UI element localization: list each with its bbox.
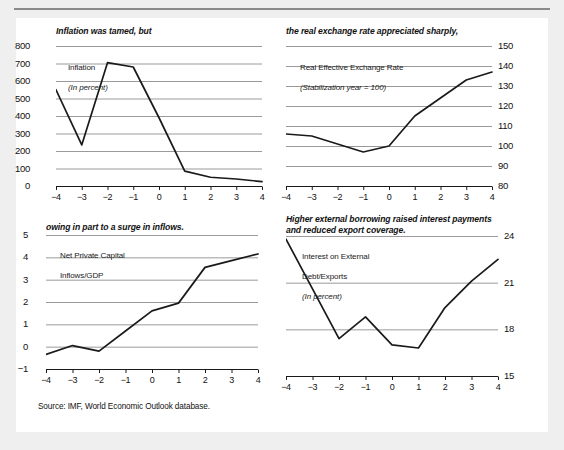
x-tick-label: −1 — [123, 193, 143, 202]
chart-title: the real exchange rate appreciated sharp… — [286, 26, 458, 37]
x-tick-label: −3 — [72, 193, 92, 202]
y-tick-label: 15 — [504, 371, 526, 381]
chart-interest-on-external-debt: Higher external borrowing raised interes… — [284, 214, 540, 402]
y-tick-label: 3 — [10, 275, 28, 285]
y-tick-label: 100 — [498, 141, 524, 151]
x-tick-label: 0 — [142, 376, 162, 385]
source-note: Source: IMF, World Economic Outlook data… — [38, 402, 210, 411]
x-tick-label: 2 — [431, 193, 451, 202]
y-tick-label: 1 — [10, 319, 28, 329]
x-tick-label: 4 — [482, 193, 502, 202]
y-tick-label: 4 — [10, 252, 28, 262]
header-rule — [14, 8, 550, 10]
x-tick-label: 0 — [149, 193, 169, 202]
x-tick-label: 2 — [195, 376, 215, 385]
x-tick-label: 3 — [226, 193, 246, 202]
x-tick-label: 3 — [462, 383, 482, 392]
series-label: Net Private Capital Inflows/GDP — [60, 241, 125, 281]
y-tick-label: 2 — [10, 297, 28, 307]
series-label-line2: (In percent) — [68, 83, 108, 92]
series-label: Inflation (In percent) — [68, 53, 108, 93]
y-tick-label: 21 — [504, 278, 526, 288]
y-tick-label: 140 — [498, 61, 524, 71]
series-label-line1: Inflation — [68, 63, 95, 72]
chart-title: Higher external borrowing raised interes… — [286, 214, 492, 235]
series-label-line3: (In percent) — [302, 292, 342, 301]
series-label-line2: Debt/Exports — [302, 272, 347, 281]
x-tick-label: −4 — [276, 193, 296, 202]
x-tick-label: −2 — [329, 383, 349, 392]
y-tick-label: 200 — [4, 146, 30, 156]
chart-net-private-capital-inflows: owing in part to a surge in inflows. Net… — [24, 222, 276, 402]
y-tick-label: 500 — [4, 94, 30, 104]
x-tick-label: 3 — [222, 376, 242, 385]
y-tick-label: 80 — [498, 181, 524, 191]
x-tick-label: −3 — [63, 376, 83, 385]
y-tick-label: 600 — [4, 76, 30, 86]
figure-page: Inflation was tamed, but Inflation (In p… — [0, 0, 564, 450]
y-tick-label: 0 — [10, 342, 28, 352]
x-tick-label: 1 — [175, 193, 195, 202]
x-tick-label: 1 — [169, 376, 189, 385]
figure-panel: Inflation was tamed, but Inflation (In p… — [16, 18, 548, 432]
charts-container: Inflation was tamed, but Inflation (In p… — [16, 18, 548, 432]
x-tick-label: 2 — [435, 383, 455, 392]
x-tick-label: −1 — [353, 193, 373, 202]
x-tick-label: 2 — [201, 193, 221, 202]
x-tick-label: 1 — [405, 193, 425, 202]
y-tick-label: −1 — [10, 364, 28, 374]
y-tick-label: 400 — [4, 111, 30, 121]
x-tick-label: 3 — [456, 193, 476, 202]
x-tick-label: 4 — [488, 383, 508, 392]
y-tick-label: 90 — [498, 161, 524, 171]
x-tick-label: −1 — [116, 376, 136, 385]
x-tick-label: −4 — [276, 383, 296, 392]
x-tick-label: 0 — [379, 193, 399, 202]
series-label: Interest on External Debt/Exports (In pe… — [302, 242, 369, 302]
x-tick-label: 4 — [248, 376, 268, 385]
series-label-line1: Interest on External — [302, 252, 369, 261]
x-tick-label: −4 — [46, 193, 66, 202]
x-tick-label: −3 — [302, 193, 322, 202]
x-tick-label: −1 — [356, 383, 376, 392]
series-label-line2: (Stabilization year = 100) — [300, 83, 386, 92]
chart-title: owing in part to a surge in inflows. — [46, 222, 184, 233]
x-tick-label: −4 — [36, 376, 56, 385]
y-tick-label: 130 — [498, 81, 524, 91]
x-tick-label: −2 — [89, 376, 109, 385]
y-tick-label: 24 — [504, 231, 526, 241]
x-tick-label: 1 — [409, 383, 429, 392]
y-tick-label: 700 — [4, 59, 30, 69]
page-header-ghost-text — [20, 0, 140, 6]
series-label: Real Effective Exchange Rate (Stabilizat… — [300, 53, 403, 93]
chart-inflation: Inflation was tamed, but Inflation (In p… — [24, 26, 276, 216]
y-tick-label: 5 — [10, 230, 28, 240]
chart-title: Inflation was tamed, but — [56, 26, 151, 37]
y-tick-label: 0 — [4, 181, 30, 191]
y-tick-label: 800 — [4, 41, 30, 51]
x-tick-label: −2 — [98, 193, 118, 202]
x-tick-label: 4 — [252, 193, 272, 202]
series-label-line1: Net Private Capital — [60, 251, 125, 260]
series-label-line2: Inflows/GDP — [60, 271, 103, 280]
y-tick-label: 110 — [498, 121, 524, 131]
y-tick-label: 120 — [498, 101, 524, 111]
x-tick-label: −2 — [328, 193, 348, 202]
y-tick-label: 18 — [504, 324, 526, 334]
y-tick-label: 150 — [498, 41, 524, 51]
x-tick-label: 0 — [382, 383, 402, 392]
chart-real-exchange-rate: the real exchange rate appreciated sharp… — [284, 26, 540, 216]
series-label-line1: Real Effective Exchange Rate — [300, 63, 403, 72]
x-tick-label: −3 — [303, 383, 323, 392]
y-tick-label: 100 — [4, 164, 30, 174]
y-tick-label: 300 — [4, 129, 30, 139]
